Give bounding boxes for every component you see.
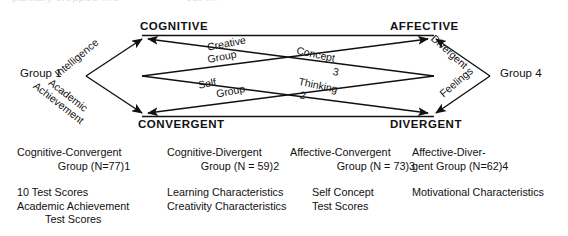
caption-heading: Affective-Diver- gent Group (N=62)4 xyxy=(412,146,562,173)
caption-heading-line1: Affective-Diver- xyxy=(412,146,486,158)
pole-label-affective: AFFECTIVE xyxy=(390,20,459,32)
pole-label-cognitive: COGNITIVE xyxy=(140,20,208,32)
arrow-cognitive-to-affective-concept xyxy=(142,39,428,76)
caption-body: 10 Test Scores Academic Achievement Test… xyxy=(17,186,177,227)
arrow-group1-to-convergent xyxy=(86,76,142,113)
caption-heading: Cognitive-Convergent Group (N=77)1 xyxy=(17,146,177,173)
arrow-affective-to-convergent-self xyxy=(148,76,434,113)
diagram-canvas xyxy=(0,0,568,140)
caption-heading-line2: gent Group (N=62)4 xyxy=(412,160,562,174)
caption-heading-line2: Group (N=77)1 xyxy=(17,160,177,174)
edge-label-self-line1: Self xyxy=(197,76,217,91)
caption-body-line: 10 Test Scores xyxy=(17,186,177,200)
arrow-affective-to-cognitive-creative xyxy=(148,39,434,76)
pole-label-divergent: DIVERGENT xyxy=(390,118,462,130)
caption-heading-line1: Cognitive-Divergent xyxy=(167,146,262,158)
diagram-page: partially cropped line cut off COGNITIVE… xyxy=(0,0,568,236)
caption-heading-line2: Group (N = 73)3 xyxy=(290,160,415,174)
caption-column-cognitive-convergent: Cognitive-Convergent Group (N=77)1 10 Te… xyxy=(17,146,177,227)
group-label-4: Group 4 xyxy=(500,67,542,79)
caption-heading-line1: Cognitive-Convergent xyxy=(17,146,121,158)
pole-label-convergent: CONVERGENT xyxy=(138,118,225,130)
caption-body-line: Test Scores xyxy=(17,213,177,227)
caption-body-line: Self Concept xyxy=(312,186,415,200)
caption-body: Motivational Characteristics xyxy=(412,186,562,200)
caption-body-line: Motivational Characteristics xyxy=(412,186,562,200)
caption-column-affective-divergent: Affective-Diver- gent Group (N=62)4 Moti… xyxy=(412,146,562,200)
caption-heading: Affective-Convergent Group (N = 73)3 xyxy=(290,146,415,173)
arrow-convergent-to-divergent-thinking xyxy=(142,76,428,113)
caption-body-line: Academic Achievement xyxy=(17,200,177,214)
caption-heading-line1: Affective-Convergent xyxy=(290,146,391,158)
caption-row: Cognitive-Convergent Group (N=77)1 10 Te… xyxy=(0,146,568,236)
caption-body: Self Concept Test Scores xyxy=(290,186,415,213)
caption-column-affective-convergent: Affective-Convergent Group (N = 73)3 Sel… xyxy=(290,146,415,213)
caption-body-line: Test Scores xyxy=(312,200,415,214)
